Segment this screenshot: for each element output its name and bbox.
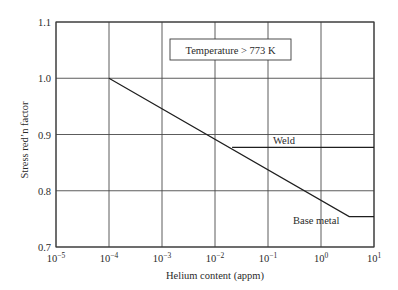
x-tick-label: 10−2 [206,251,225,264]
x-tick-label: 10−3 [153,251,172,264]
x-tick-label: 10−5 [47,251,66,264]
x-axis-label: Helium content (appm) [166,270,264,282]
temperature-annotation: Temperature > 773 K [170,39,291,60]
y-tick-label: 0.8 [38,186,51,197]
y-tick-label: 0.7 [38,242,51,253]
series-layer [109,78,374,216]
x-tick-label: 10−1 [259,251,278,264]
y-tick-label: 0.9 [38,130,51,141]
annotation-temperature: Temperature > 773 K [185,45,275,56]
y-axis-label: Stress red’n factor [19,101,30,178]
x-tick-label: 101 [367,251,382,264]
x-tick-label: 10−4 [100,251,119,264]
y-tick-label: 1.1 [38,17,51,28]
y-tick-label: 1.0 [38,73,51,84]
chart: 0.70.80.91.01.1 10−510−410−310−210−11001… [0,0,398,290]
weld-label: Weld [273,135,296,146]
x-tick-label: 100 [314,251,329,264]
y-tick-labels: 0.70.80.91.01.1 [38,17,51,253]
base-metal-label: Base metal [293,215,339,226]
x-tick-labels: 10−510−410−310−210−1100101 [47,251,382,264]
